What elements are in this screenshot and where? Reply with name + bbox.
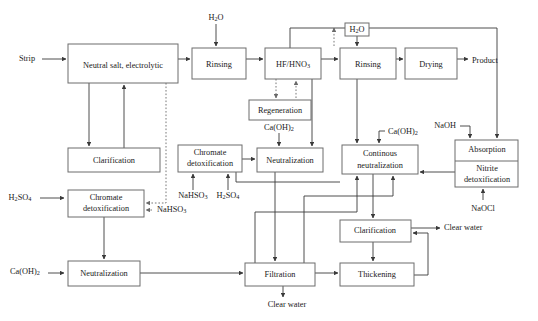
connector-caoh2-elbow bbox=[379, 131, 385, 133]
box-rinsing-2[interactable]: Rinsing bbox=[340, 48, 396, 79]
box-drying-label: Drying bbox=[419, 60, 443, 69]
box-rinsing-1-label: Rinsing bbox=[206, 60, 232, 69]
box-absorption-nitrite-stack[interactable]: Absorption Nitrite detoxification bbox=[455, 140, 518, 187]
box-hf-hno3[interactable]: HF/HNO3 bbox=[265, 48, 321, 79]
connector-hfhno3-fumes-to-absorption bbox=[290, 28, 497, 138]
box-rinsing-2-label: Rinsing bbox=[355, 60, 381, 69]
box-neutralization-mid[interactable]: Neutralization bbox=[257, 148, 323, 172]
box-rinsing-1[interactable]: Rinsing bbox=[192, 48, 246, 79]
label-clear-water-filtration: Clear water bbox=[268, 300, 307, 309]
label-nahso3-low: NaHSO3 bbox=[157, 205, 186, 215]
box-clarification-bottom[interactable]: Clarification bbox=[340, 220, 411, 242]
box-chromate-detox-low[interactable]: Chromate detoxification bbox=[68, 190, 144, 217]
box-nitrite-detox-label-line1: Nitrite bbox=[476, 164, 498, 173]
box-hf-hno3-label: HF/HNO3 bbox=[276, 60, 310, 70]
label-caoh2-regeneration: Ca(OH)2 bbox=[264, 123, 294, 133]
process-flow-diagram-canvas: Neutral salt, electrolytic Rinsing HF/HN… bbox=[0, 0, 538, 321]
connector-chromate-detox-mid-feeder bbox=[236, 172, 340, 182]
box-filtration[interactable]: Filtration bbox=[245, 263, 315, 286]
connector-naoh-to-absorption bbox=[460, 126, 470, 138]
box-continous-neutralization-label-line1: Continous bbox=[363, 149, 397, 158]
label-h2so4-mid: H2SO4 bbox=[217, 191, 240, 201]
label-naoh: NaOH bbox=[434, 121, 456, 130]
diagram-svg: Neutral salt, electrolytic Rinsing HF/HN… bbox=[0, 0, 538, 321]
box-neutralization-low[interactable]: Neutralization bbox=[68, 261, 140, 286]
box-clarification-top[interactable]: Clarification bbox=[68, 148, 160, 172]
box-regeneration-label: Regeneration bbox=[258, 106, 303, 115]
box-chromate-detox-mid-label-line2: detoxification bbox=[187, 159, 234, 168]
label-product: Product bbox=[472, 56, 499, 65]
box-continous-neutralization-label-line2: neutralization bbox=[357, 161, 403, 170]
box-chromate-detox-mid[interactable]: Chromate detoxification bbox=[178, 145, 242, 172]
box-chromate-detox-low-label-line2: detoxification bbox=[83, 204, 130, 213]
box-neutralization-low-label: Neutralization bbox=[80, 269, 128, 278]
box-clarification-bottom-label: Clarification bbox=[354, 226, 397, 235]
box-h2o-recycle[interactable]: H2O bbox=[345, 23, 369, 36]
box-filtration-label: Filtration bbox=[265, 270, 297, 279]
box-continous-neutralization[interactable]: Continous neutralization bbox=[342, 145, 418, 174]
box-thickening[interactable]: Thickening bbox=[340, 263, 414, 286]
connector-neutralsalt-to-chromate-detox-low bbox=[146, 83, 166, 203]
box-thickening-label: Thickening bbox=[358, 270, 396, 279]
label-caoh2-low: Ca(OH)2 bbox=[10, 267, 40, 277]
label-naocl: NaOCl bbox=[471, 204, 495, 213]
box-drying[interactable]: Drying bbox=[405, 48, 457, 79]
box-chromate-detox-mid-label-line1: Chromate bbox=[194, 148, 227, 157]
box-regeneration[interactable]: Regeneration bbox=[249, 100, 311, 120]
label-h2o-top: H2O bbox=[208, 13, 223, 23]
label-h2so4-low: H2SO4 bbox=[9, 193, 32, 203]
label-strip: Strip bbox=[19, 54, 35, 63]
box-clarification-top-label: Clarification bbox=[93, 156, 136, 165]
label-clear-water-clarification: Clear water bbox=[444, 223, 483, 232]
box-chromate-detox-low-label-line1: Chromate bbox=[90, 193, 123, 202]
label-caoh2-continous: Ca(OH)2 bbox=[388, 127, 418, 137]
box-absorption-label: Absorption bbox=[468, 145, 506, 154]
connector-thickening-recycle-to-clarification-bot bbox=[413, 233, 428, 275]
label-nahso3-mid: NaHSO3 bbox=[178, 191, 207, 201]
box-neutralization-mid-label: Neutralization bbox=[266, 156, 314, 165]
box-nitrite-detox-label-line2: detoxification bbox=[464, 175, 511, 184]
box-neutral-salt[interactable]: Neutral salt, electrolytic bbox=[68, 44, 178, 83]
box-layer: Neutral salt, electrolytic Rinsing HF/HN… bbox=[68, 23, 518, 286]
box-neutral-salt-label: Neutral salt, electrolytic bbox=[83, 61, 163, 70]
